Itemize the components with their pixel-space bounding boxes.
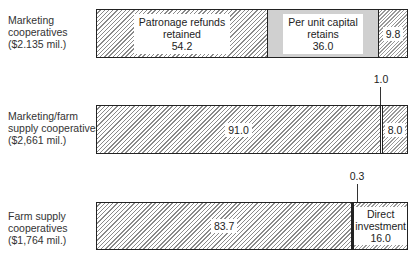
segment-per-unit-capital: Per unit capital retains 36.0 [267, 10, 378, 57]
segment-label: Per unit capital retains 36.0 [283, 14, 362, 54]
segment-value: 83.7 [211, 219, 237, 233]
row-label-line: ($1,764 mil.) [8, 234, 68, 246]
callout-leader-line [380, 87, 381, 105]
segment-label-line: Patronage refunds [139, 16, 225, 28]
segment-value: 16.0 [355, 232, 406, 244]
segment-value: 91.0 [225, 123, 251, 137]
row-label-line: cooperatives [8, 26, 68, 38]
segment-direct-investment: Direct investment 16.0 [353, 203, 407, 249]
row-label-marketing-cooperatives: Marketing cooperatives ($2.135 mil.) [8, 14, 68, 50]
row-label-line: Marketing [8, 14, 68, 26]
segment-direct-investment: 9.8 [378, 10, 407, 57]
segment-label: Direct investment 16.0 [354, 207, 407, 245]
callout-value-1-0: 1.0 [373, 73, 389, 85]
segment-label: Patronage refunds retained 54.2 [134, 14, 230, 54]
segment-value: 54.2 [139, 40, 225, 52]
callout-value-0-3: 0.3 [349, 170, 365, 182]
bar-marketing-farm-supply: 91.0 8.0 [96, 105, 408, 154]
segment-label-line: Direct [355, 208, 406, 220]
row-label-line: cooperatives [8, 222, 68, 234]
row-label-marketing-farm-supply: Marketing/farm supply cooperatives ($2,6… [8, 110, 101, 146]
row-label-line: Farm supply [8, 210, 68, 222]
bar-farm-supply: 83.7 Direct investment 16.0 [96, 202, 408, 250]
callout-leader-line [357, 184, 358, 203]
row-label-line: ($2,661 mil.) [8, 134, 101, 146]
row-label-farm-supply: Farm supply cooperatives ($1,764 mil.) [8, 210, 68, 246]
row-label-line: ($2.135 mil.) [8, 38, 68, 50]
segment-value: 36.0 [288, 40, 357, 52]
segment-value: 8.0 [385, 123, 406, 137]
row-label-line: supply cooperatives [8, 122, 101, 134]
segment-patronage-refunds: Patronage refunds retained 54.2 [97, 10, 267, 57]
row-label-line: Marketing/farm [8, 110, 101, 122]
segment-label-line: retained [139, 28, 225, 40]
segment-label-line: retains [288, 28, 357, 40]
segment-direct-investment: 8.0 [383, 106, 407, 153]
bar-marketing-cooperatives: Patronage refunds retained 54.2 Per unit… [96, 9, 408, 58]
segment-label-line: investment [355, 220, 406, 232]
segment-patronage-refunds: 83.7 [97, 203, 351, 249]
segment-label-line: Per unit capital [288, 16, 357, 28]
segment-value: 9.8 [383, 27, 404, 41]
segment-patronage-refunds: 91.0 [97, 106, 380, 153]
